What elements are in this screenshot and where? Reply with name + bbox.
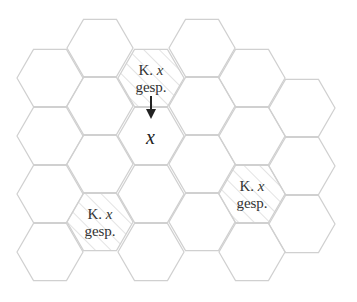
label-prefix: K. <box>87 206 105 222</box>
label-line2: gesp. <box>236 195 267 211</box>
label-var: x <box>106 206 113 222</box>
hex-grid <box>0 0 357 302</box>
label-line2: gesp. <box>84 223 115 239</box>
label-var: x <box>258 178 265 194</box>
target-cell-label: x <box>146 126 155 149</box>
label-prefix: K. <box>239 178 257 194</box>
label-line2: gesp. <box>135 79 166 95</box>
hex-cells <box>17 19 335 280</box>
label-prefix: K. <box>138 62 156 78</box>
hex-grid-diagram: K. x gesp. x K. x gesp. K. x gesp. <box>0 0 357 302</box>
cell-label-top: K. x gesp. <box>121 62 181 96</box>
cell-label-right: K. x gesp. <box>222 178 282 212</box>
label-var: x <box>157 62 164 78</box>
cell-label-bottom-left: K. x gesp. <box>70 206 130 240</box>
